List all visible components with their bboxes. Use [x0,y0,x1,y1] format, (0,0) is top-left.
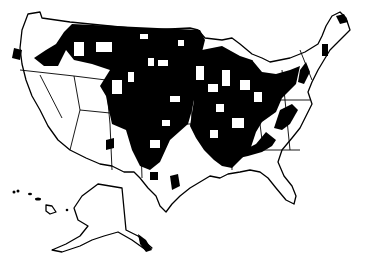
alaska-inset [52,184,152,252]
us-county-map [0,0,377,264]
alaska-panhandle [138,234,152,252]
hawaii-inset [13,190,69,215]
